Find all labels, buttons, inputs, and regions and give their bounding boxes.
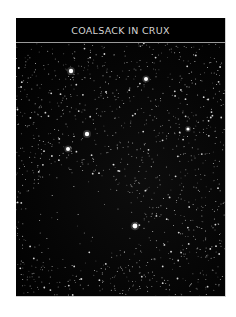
- bright-star: [133, 224, 138, 229]
- bright-star: [144, 77, 148, 81]
- photo-plate: COALSACK IN CRUX: [16, 18, 226, 297]
- plate-title: COALSACK IN CRUX: [71, 25, 170, 36]
- bright-star: [66, 147, 70, 151]
- bright-star: [186, 127, 189, 130]
- bright-star: [85, 132, 89, 136]
- title-band: COALSACK IN CRUX: [16, 18, 225, 43]
- bright-star: [69, 69, 73, 73]
- star-field-image: [16, 43, 225, 296]
- star-field-svg: [16, 43, 225, 296]
